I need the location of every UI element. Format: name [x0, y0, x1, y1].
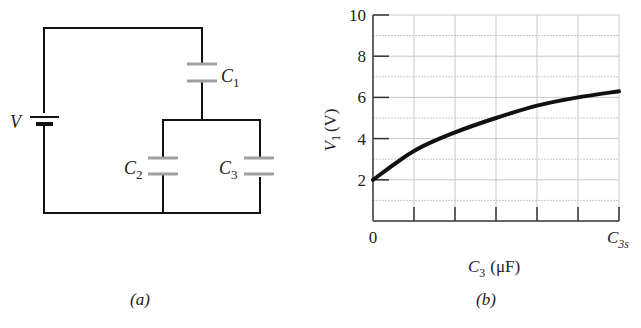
- y-tick-labels: 246810: [349, 6, 367, 190]
- y-tick-label: 6: [358, 88, 367, 107]
- y-tick-label: 2: [358, 171, 367, 190]
- y-tick-label: 10: [349, 6, 366, 25]
- y-tick-label: 8: [358, 47, 367, 66]
- circuit-diagram: [44, 28, 260, 213]
- x-end-label: C3s: [607, 228, 629, 251]
- capacitor-c1-label: C1: [221, 66, 240, 90]
- voltage-plot: [373, 15, 619, 221]
- battery-icon: [30, 117, 59, 124]
- capacitor-c3-label: C3: [219, 158, 238, 182]
- x-origin-label: 0: [369, 228, 378, 247]
- x-axis-label: C3(μF): [468, 257, 520, 280]
- y-axis-label: V1(V): [321, 109, 343, 152]
- caption-b: (b): [476, 290, 496, 309]
- wire-parallel-top: [163, 120, 260, 157]
- capacitor-c2-icon: [148, 158, 178, 174]
- capacitor-c1-icon: [187, 64, 217, 81]
- caption-a: (a): [130, 290, 150, 309]
- capacitor-c3-icon: [244, 158, 274, 174]
- y-tick-label: 4: [358, 130, 367, 149]
- figure-canvas: V C1 C2 C3 (a) 246810 V1(V) 0 C3s C3(μF)…: [0, 0, 641, 328]
- wire-left-top: [44, 28, 202, 113]
- capacitor-c2-label: C2: [124, 158, 143, 182]
- battery-label: V: [10, 112, 23, 132]
